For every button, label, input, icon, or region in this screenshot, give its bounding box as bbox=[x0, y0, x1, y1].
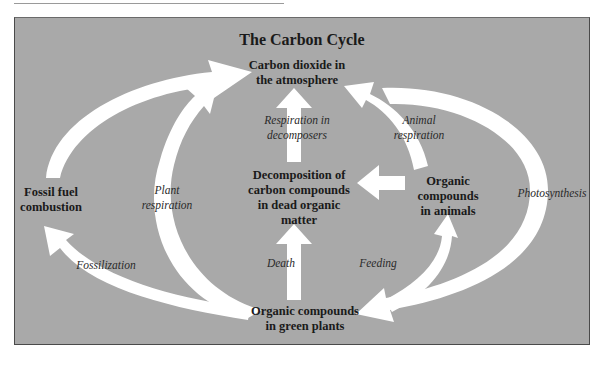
node-atmosphere-line1: Carbon dioxide in bbox=[242, 58, 352, 73]
label-animal-respiration-line1: Animal bbox=[384, 113, 454, 128]
label-plant-respiration: Plant respiration bbox=[132, 183, 202, 213]
label-respiration-decomposers: Respiration in decomposers bbox=[252, 113, 342, 143]
label-death: Death bbox=[256, 256, 306, 271]
label-feeding: Feeding bbox=[348, 256, 408, 271]
node-decomposition-line2: carbon compounds bbox=[244, 183, 354, 198]
node-fossil-line1: Fossil fuel bbox=[16, 185, 86, 200]
arrow-fossil-to-atmosphere bbox=[46, 60, 252, 178]
node-fossil-line2: combustion bbox=[16, 200, 86, 215]
node-green-plants: Organic compounds in green plants bbox=[240, 304, 370, 334]
node-atmosphere-line2: the atmosphere bbox=[242, 73, 352, 88]
node-atmosphere: Carbon dioxide in the atmosphere bbox=[242, 58, 352, 88]
node-decomposition-line3: in dead organic bbox=[244, 198, 354, 213]
label-animal-respiration: Animal respiration bbox=[384, 113, 454, 143]
label-fossilization: Fossilization bbox=[66, 258, 146, 273]
arrow-animals-to-decomposition bbox=[357, 165, 405, 200]
node-decomposition-line1: Decomposition of bbox=[244, 168, 354, 183]
label-plant-respiration-line1: Plant bbox=[132, 183, 202, 198]
arrow-fossilization bbox=[44, 226, 250, 320]
label-respiration-decomposers-line1: Respiration in bbox=[252, 113, 342, 128]
label-plant-respiration-line2: respiration bbox=[132, 198, 202, 213]
node-animals-line3: in animals bbox=[408, 204, 488, 219]
label-photosynthesis: Photosynthesis bbox=[512, 186, 592, 201]
node-plants-line1: Organic compounds bbox=[240, 304, 370, 319]
node-animals-line2: compounds bbox=[408, 189, 488, 204]
label-respiration-decomposers-line2: decomposers bbox=[252, 128, 342, 143]
node-plants-line2: in green plants bbox=[240, 319, 370, 334]
label-animal-respiration-line2: respiration bbox=[384, 128, 454, 143]
diagram-title: The Carbon Cycle bbox=[182, 32, 422, 47]
node-fossil-fuel: Fossil fuel combustion bbox=[16, 185, 86, 215]
node-animals-line1: Organic bbox=[408, 174, 488, 189]
node-decomposition-line4: matter bbox=[244, 213, 354, 228]
node-animals: Organic compounds in animals bbox=[408, 174, 488, 219]
node-decomposition: Decomposition of carbon compounds in dea… bbox=[244, 168, 354, 228]
